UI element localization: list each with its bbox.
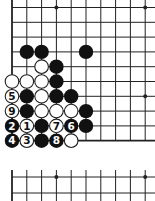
- black-stone-icon: [20, 45, 34, 59]
- move-number-label: 7: [53, 120, 60, 132]
- black-stone-icon: [79, 45, 93, 59]
- white-stone-move-1: 1: [20, 119, 34, 133]
- move-number-label: 5: [8, 90, 15, 102]
- move-number-label: 6: [68, 120, 75, 132]
- black-stone: [34, 134, 48, 148]
- black-stone-icon: [34, 119, 48, 133]
- white-stone-icon: [20, 75, 34, 89]
- star-point-icon: [143, 94, 147, 98]
- black-stone-icon: [64, 89, 78, 103]
- black-stone: [20, 89, 34, 103]
- black-stone-icon: [20, 89, 34, 103]
- move-number-label: 3: [23, 134, 30, 146]
- black-stone: [64, 89, 78, 103]
- white-stone: [35, 90, 49, 104]
- white-stone-icon: [5, 75, 19, 89]
- black-stone-move-8: 8: [49, 134, 63, 148]
- black-stone-icon: [79, 119, 93, 133]
- white-stone-move-7: 7: [50, 119, 64, 133]
- black-stone: [49, 74, 63, 88]
- white-stone: [20, 75, 34, 89]
- white-stone-icon: [35, 60, 49, 74]
- black-stone-icon: [34, 134, 48, 148]
- star-point-icon: [143, 175, 147, 179]
- star-point-icon: [54, 6, 58, 10]
- black-stone-icon: [49, 59, 63, 73]
- black-stone: [34, 119, 48, 133]
- white-stone: [35, 75, 49, 89]
- black-stone-icon: [20, 104, 34, 118]
- move-number-label: 9: [8, 105, 15, 117]
- black-stone-icon: [49, 74, 63, 88]
- black-stone: [34, 45, 48, 59]
- white-stone: [5, 75, 19, 89]
- black-stone-move-4: 4: [5, 134, 19, 148]
- black-stone: [20, 45, 34, 59]
- white-stone: [50, 104, 64, 118]
- white-stone: [35, 60, 49, 74]
- black-stone: [49, 59, 63, 73]
- white-stone-icon: [64, 134, 78, 148]
- white-stone-icon: [35, 104, 49, 118]
- black-stone-icon: [34, 45, 48, 59]
- white-stone-move-3: 3: [20, 134, 34, 148]
- black-stone-icon: [79, 104, 93, 118]
- white-stone-icon: [50, 104, 64, 118]
- black-stone: [49, 89, 63, 103]
- white-stone-icon: [35, 75, 49, 89]
- black-stone: [79, 104, 93, 118]
- black-stone: [79, 45, 93, 59]
- move-number-label: 2: [8, 120, 15, 132]
- move-number-label: 4: [8, 134, 15, 146]
- white-stone: [35, 104, 49, 118]
- black-stone-move-6: 6: [64, 119, 78, 133]
- black-stone-move-2: 2: [5, 119, 19, 133]
- star-point-icon: [54, 175, 58, 179]
- white-stone: [64, 134, 78, 148]
- white-stone-icon: [35, 90, 49, 104]
- white-stone-icon: [64, 104, 78, 118]
- move-number-label: 8: [53, 134, 60, 146]
- go-board-diagram: 592176438: [0, 0, 155, 201]
- star-point-icon: [143, 6, 147, 10]
- white-stone-move-5: 5: [5, 90, 19, 104]
- white-stone-move-9: 9: [5, 104, 19, 118]
- black-stone: [79, 119, 93, 133]
- black-stone: [20, 104, 34, 118]
- white-stone: [64, 104, 78, 118]
- black-stone-icon: [49, 89, 63, 103]
- lower-board-fragment: [12, 170, 155, 201]
- move-number-label: 1: [23, 120, 30, 132]
